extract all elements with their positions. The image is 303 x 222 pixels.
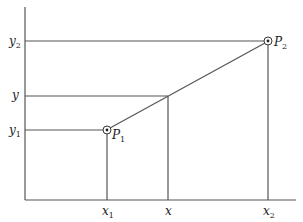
y1-label: y1 [8, 123, 21, 139]
point-p2-marker [264, 37, 272, 45]
y-label: y [11, 88, 19, 102]
point-p1-marker [103, 126, 111, 134]
p1-label: P1 [111, 128, 125, 144]
x-label: x [165, 204, 172, 218]
y2-label: y2 [8, 34, 21, 50]
x2-label: x2 [263, 204, 275, 220]
p2-label: P2 [273, 35, 287, 51]
interpolation-diagram: P1 P2 y2 y y1 x1 x x2 [0, 0, 303, 222]
x1-label: x1 [102, 204, 114, 220]
interpolation-line [110, 43, 265, 128]
